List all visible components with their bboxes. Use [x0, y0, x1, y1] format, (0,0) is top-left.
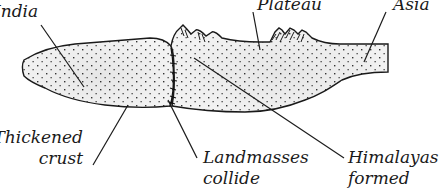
label-himalayas-formed-line2: formed [348, 169, 410, 187]
label-thickened-crust-line2: crust [39, 149, 83, 167]
india-landmass [23, 38, 175, 107]
label-thickened-crust-line1: Thickened [0, 128, 83, 146]
himalaya-formation-diagram: India Plateau Asia Thickened crust Landm… [0, 0, 447, 195]
label-asia: Asia [393, 0, 430, 13]
label-himalayas-formed-line1: Himalayas [348, 148, 439, 166]
label-plateau: Plateau [257, 0, 322, 13]
label-landmasses-collide-line1: Landmasses [203, 148, 309, 166]
label-india: India [0, 2, 38, 20]
label-landmasses-collide-line2: collide [203, 169, 260, 187]
leader-thickened-crust [93, 105, 128, 165]
